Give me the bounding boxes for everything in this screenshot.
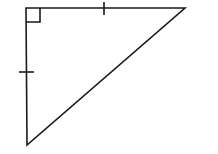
triangle [26, 8, 185, 145]
right-angle-marker [26, 8, 40, 22]
right-triangle-diagram [0, 0, 218, 154]
